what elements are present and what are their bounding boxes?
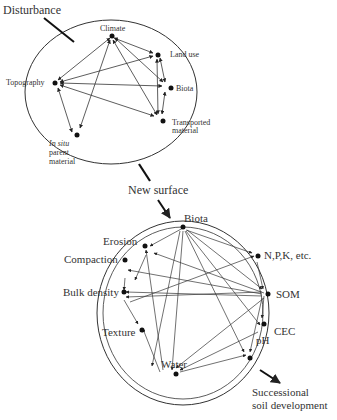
in-situ-italic: In situ [49, 139, 69, 148]
bottom-inner-circle [103, 227, 263, 399]
bottom-outer-circle [97, 221, 269, 405]
node-label-texture: Texture [102, 327, 135, 338]
soil-development-diagram: Disturbance Climate Land use Biota Trans… [0, 0, 337, 420]
successional-soil-development-label: Successionalsoil development [252, 386, 327, 411]
node-label-ph: pH [256, 335, 269, 346]
outcome-line-2: soil development [252, 399, 327, 411]
node-label-transported-material: Transported material [172, 119, 232, 135]
node-label-biota: Biota [184, 213, 208, 224]
outcome-line-1: Successional [252, 386, 309, 398]
node-label-npk: N,P,K, etc. [264, 250, 311, 261]
node-label-topography: Topography [6, 79, 45, 87]
node-label-bulk-density: Bulk density [63, 287, 119, 298]
disturbance-arrow [44, 18, 74, 42]
new-surface-label: New surface [128, 184, 188, 196]
top-arrows [58, 38, 165, 132]
disturbance-label: Disturbance [3, 4, 61, 16]
node-label-erosion: Erosion [103, 236, 137, 247]
diagram-graphics [0, 0, 337, 420]
bottom-nodes [122, 225, 271, 377]
successional-arrow [260, 370, 280, 383]
node-label-biota-top: Biota [176, 85, 193, 93]
node-label-compaction: Compaction [64, 254, 118, 265]
bottom-arrows [124, 228, 264, 372]
node-label-cec: CEC [274, 326, 295, 337]
node-label-in-situ: In situparent material [49, 140, 89, 166]
node-label-water: Water [161, 359, 187, 370]
in-situ-rest: parent material [49, 148, 75, 166]
node-label-land-use: Land use [170, 51, 199, 59]
new-surface-line-top [139, 164, 150, 181]
new-surface-arrow [158, 200, 170, 218]
node-label-climate: Climate [100, 25, 125, 33]
node-label-som: SOM [276, 289, 300, 300]
